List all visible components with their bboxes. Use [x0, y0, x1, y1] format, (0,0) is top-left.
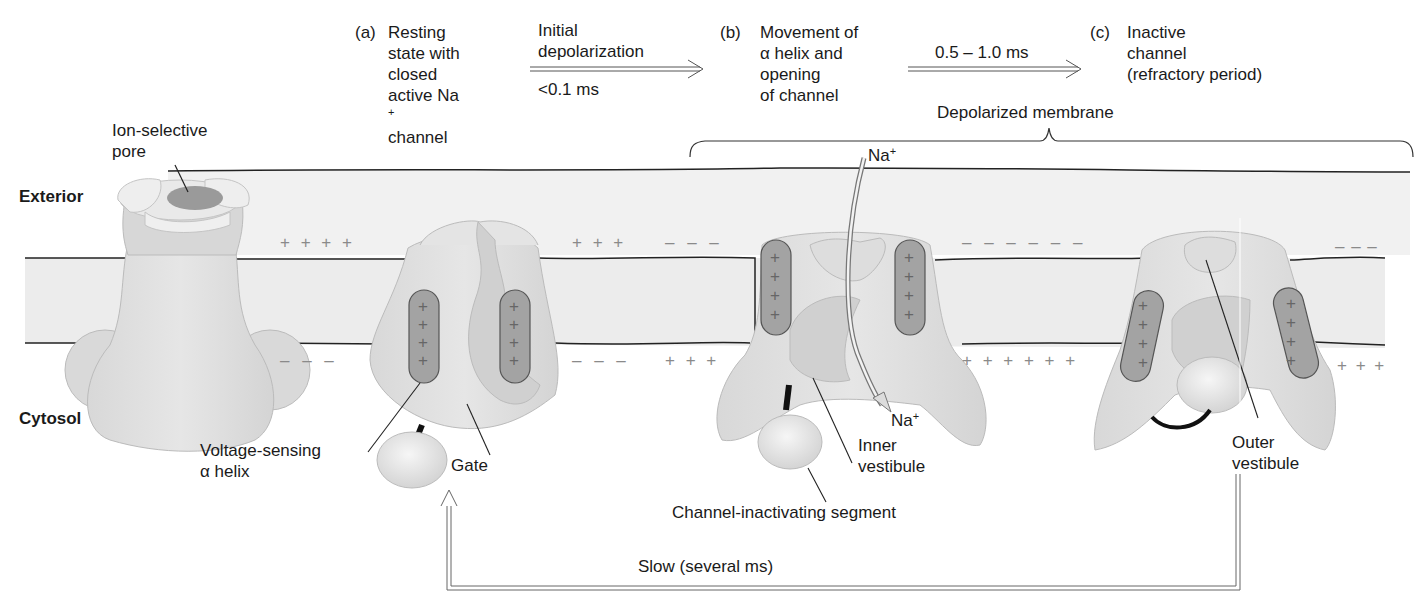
recovery-arrow — [441, 474, 1240, 590]
channel-inactivating-segment-label: Channel-inactivating segment — [672, 502, 896, 523]
transition-1-duration: <0.1 ms — [538, 79, 599, 100]
helix-b-left-charges: + + + + — [770, 248, 780, 324]
stage-a-description: Resting state with closed active Na+ cha… — [388, 22, 460, 148]
gate-label: Gate — [451, 455, 488, 476]
charges-resting-cytosol: – – – — [280, 350, 338, 371]
charges-resting-exterior: + + + + — [280, 232, 355, 253]
helix-c-left-charges: + + + + — [1138, 296, 1148, 372]
voltage-sensing-helix-label: Voltage-sensing α helix — [200, 440, 321, 482]
ion-selective-pore-label: Ion-selective pore — [112, 120, 207, 162]
na-ion-cytosol-label: Na+ — [891, 410, 919, 431]
inner-vestibule-label: Inner vestibule — [858, 435, 925, 477]
stage-b-letter: (b) — [720, 22, 741, 43]
charges-c-right-exterior: – – – — [1335, 236, 1378, 257]
outer-vestibule-label: Outer vestibule — [1232, 432, 1299, 474]
charges-c-right-cytosol: + + + — [1337, 355, 1386, 376]
cytosol-label: Cytosol — [19, 408, 81, 429]
charges-b-left-exterior: – – – — [665, 232, 723, 253]
na-ion-exterior-label: Na+ — [868, 145, 896, 166]
depolarized-brace — [690, 128, 1413, 157]
exterior-label: Exterior — [19, 186, 83, 207]
transition-1-label-mid: depolarization — [538, 41, 644, 62]
helix-b-right-charges: + + + + — [904, 248, 914, 324]
charges-b-right-exterior: – – – – – – — [962, 232, 1086, 253]
depolarized-membrane-label: Depolarized membrane — [937, 102, 1114, 123]
charges-b-right-cytosol: + + + + + + — [962, 350, 1078, 371]
stage-c-letter: (c) — [1090, 22, 1110, 43]
transition-1-label-top: Initial — [538, 20, 578, 41]
transition-arrow-a-b — [530, 60, 703, 78]
charges-b-left-cytosol: + + + — [665, 350, 719, 371]
stage-b-description: Movement of α helix and opening of chann… — [760, 22, 858, 106]
helix-a-right-charges: + + + + — [509, 298, 519, 370]
charges-a-right-exterior: + + + — [572, 232, 626, 253]
helix-c-right-charges: + + + + — [1286, 294, 1296, 370]
charges-a-right-cytosol: – – – — [572, 350, 630, 371]
recovery-duration-label: Slow (several ms) — [638, 556, 773, 577]
helix-a-left-charges: + + + + — [418, 298, 428, 370]
stage-c-description: Inactive channel (refractory period) — [1127, 22, 1262, 85]
stage-a-letter: (a) — [355, 22, 376, 43]
transition-2-duration: 0.5 – 1.0 ms — [935, 42, 1029, 63]
